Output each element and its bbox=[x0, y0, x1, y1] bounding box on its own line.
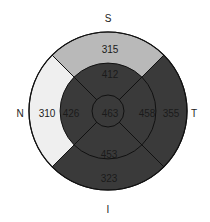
outer-superior-value: 315 bbox=[102, 44, 119, 55]
outer-inferior-value: 323 bbox=[101, 173, 118, 184]
inner-inferior-value: 453 bbox=[101, 149, 118, 160]
direction-label-inferior: I bbox=[107, 204, 110, 215]
outer-nasal-value: 310 bbox=[39, 108, 56, 119]
direction-label-nasal: N bbox=[16, 108, 23, 119]
thickness-map: 315 412 310 426 463 458 355 453 323 S I … bbox=[0, 0, 210, 222]
inner-superior-value: 412 bbox=[102, 69, 119, 80]
direction-label-superior: S bbox=[105, 13, 112, 24]
direction-label-temporal: T bbox=[191, 108, 197, 119]
outer-temporal-value: 355 bbox=[163, 108, 180, 119]
inner-nasal-value: 426 bbox=[63, 108, 80, 119]
inner-temporal-value: 458 bbox=[139, 108, 156, 119]
center-value: 463 bbox=[102, 108, 119, 119]
